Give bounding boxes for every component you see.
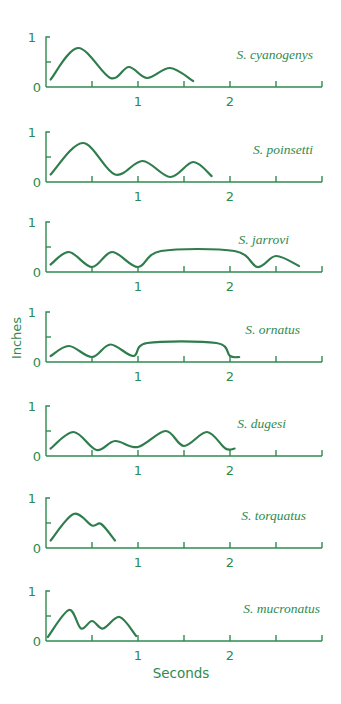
display-chart: 1012S. cyanogenys1012S. poinsetti1012S. … bbox=[0, 0, 341, 704]
y-tick-label-0: 0 bbox=[33, 449, 41, 464]
series-line bbox=[51, 143, 212, 177]
chart-panel: 1012S. dugesi bbox=[28, 399, 322, 478]
series-line bbox=[51, 249, 299, 267]
y-tick-label-1: 1 bbox=[28, 125, 36, 140]
y-tick-label-0: 0 bbox=[33, 175, 41, 190]
x-tick-label-1: 1 bbox=[134, 94, 142, 109]
x-tick-label-2: 2 bbox=[226, 648, 234, 663]
x-tick-label-2: 2 bbox=[226, 555, 234, 570]
x-axis-title: Seconds bbox=[153, 665, 210, 681]
chart-panel: 1012S. jarrovi bbox=[28, 215, 322, 294]
y-tick-label-0: 0 bbox=[33, 634, 41, 649]
species-label: S. cyanogenys bbox=[237, 47, 313, 62]
y-tick-label-0: 0 bbox=[33, 80, 41, 95]
series-line bbox=[51, 514, 115, 541]
y-tick-label-0: 0 bbox=[33, 355, 41, 370]
y-tick-label-1: 1 bbox=[28, 305, 36, 320]
species-label: S. poinsetti bbox=[253, 142, 313, 157]
x-tick-label-2: 2 bbox=[226, 189, 234, 204]
x-tick-label-1: 1 bbox=[134, 189, 142, 204]
species-label: S. jarrovi bbox=[239, 232, 290, 247]
y-tick-label-1: 1 bbox=[28, 491, 36, 506]
x-tick-label-1: 1 bbox=[134, 555, 142, 570]
species-label: S. mucronatus bbox=[243, 601, 320, 616]
x-tick-label-1: 1 bbox=[134, 648, 142, 663]
y-tick-label-1: 1 bbox=[28, 399, 36, 414]
y-tick-label-1: 1 bbox=[28, 584, 36, 599]
y-tick-label-0: 0 bbox=[33, 541, 41, 556]
chart-panel: 1012S. ornatus bbox=[28, 305, 322, 384]
y-axis-title: Inches bbox=[9, 317, 24, 359]
x-tick-label-2: 2 bbox=[226, 463, 234, 478]
x-tick-label-1: 1 bbox=[134, 369, 142, 384]
x-tick-label-1: 1 bbox=[134, 279, 142, 294]
y-tick-label-1: 1 bbox=[28, 215, 36, 230]
series-line bbox=[51, 341, 240, 357]
series-line bbox=[51, 48, 194, 81]
y-tick-label-0: 0 bbox=[33, 265, 41, 280]
chart-panel: 1012S. cyanogenys bbox=[28, 30, 322, 109]
x-tick-label-2: 2 bbox=[226, 279, 234, 294]
x-tick-label-2: 2 bbox=[226, 369, 234, 384]
x-tick-label-1: 1 bbox=[134, 463, 142, 478]
series-line bbox=[51, 431, 235, 450]
chart-panel: 1012S. poinsetti bbox=[28, 125, 322, 204]
chart-panel: 1012S. mucronatus bbox=[28, 584, 322, 663]
species-label: S. dugesi bbox=[237, 416, 286, 431]
series-line bbox=[48, 610, 136, 637]
x-tick-label-2: 2 bbox=[226, 94, 234, 109]
chart-panel: 1012S. torquatus bbox=[28, 491, 322, 570]
species-label: S. ornatus bbox=[245, 322, 300, 337]
y-tick-label-1: 1 bbox=[28, 30, 36, 45]
species-label: S. torquatus bbox=[241, 508, 306, 523]
